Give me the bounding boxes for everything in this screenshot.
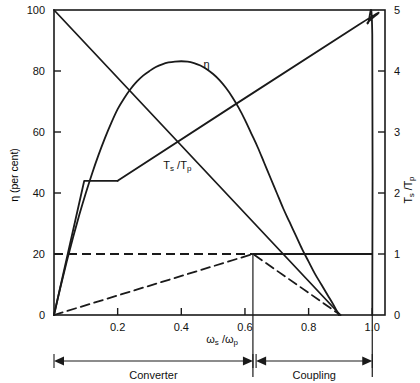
y-tick-label-left: 0 [39, 309, 45, 321]
x-tick-label: 0.8 [301, 321, 316, 333]
ts-tp-curve-label: Ts /Tp [163, 159, 192, 173]
y-tick-label-right: 4 [394, 65, 400, 77]
y-tick-label-left: 100 [27, 4, 45, 16]
y-tick-label-right: 1 [394, 248, 400, 260]
plot-border [54, 10, 385, 315]
y-axis-right-ticks: 012345 [378, 4, 400, 321]
y-tick-label-left: 40 [33, 187, 45, 199]
figure-container: 020406080100 012345 0.20.40.60.81.0 η (p… [0, 0, 420, 383]
region-bar-converter-arrow-right [243, 357, 253, 366]
y-tick-label-right: 3 [394, 126, 400, 138]
y-axis-left-ticks: 020406080100 [27, 4, 61, 321]
series-path [118, 10, 379, 315]
x-axis-ticks: 0.20.40.60.81.0 [110, 308, 380, 333]
y-tick-label-left: 80 [33, 65, 45, 77]
chart-canvas: 020406080100 012345 0.20.40.60.81.0 η (p… [0, 0, 420, 383]
y-tick-label-right: 5 [394, 4, 400, 16]
y-tick-label-left: 60 [33, 126, 45, 138]
series-path [54, 181, 118, 315]
region-bar-converter [54, 354, 253, 368]
series-path [54, 254, 340, 315]
x-tick-label: 0.2 [110, 321, 125, 333]
region-label-converter: Converter [129, 369, 178, 381]
x-tick-label: 0.4 [174, 321, 189, 333]
y-tick-label-left: 20 [33, 248, 45, 260]
region-bar-coupling-arrow-right [362, 357, 372, 366]
region-bars-group [54, 354, 372, 368]
region-label-coupling: Coupling [292, 369, 335, 381]
y-axis-left-title: η (per cent) [8, 148, 20, 202]
region-bar-coupling [256, 354, 372, 368]
region-bar-converter-arrow-left [54, 357, 64, 366]
data-series-group [54, 10, 379, 315]
x-axis-title: ωs /ωp [206, 333, 238, 347]
y-tick-label-right: 2 [394, 187, 400, 199]
x-tick-label: 0.6 [237, 321, 252, 333]
series-path [54, 10, 340, 315]
region-bar-coupling-arrow-left [256, 357, 266, 366]
series-path [54, 61, 339, 315]
y-axis-right-title: Ts /Tp [402, 176, 416, 204]
y-tick-label-right: 0 [394, 309, 400, 321]
eta-curve-label: η [204, 58, 210, 70]
plot-frame [54, 10, 385, 315]
